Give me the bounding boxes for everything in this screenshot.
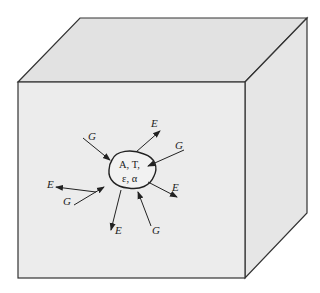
label-e-lower-right: E [171,181,179,193]
label-g-bottom-right: G [152,224,160,236]
body-properties-line2: ε, α [122,173,138,184]
label-e-left: E [46,178,54,190]
label-e-bottom: E [114,224,122,236]
label-e-upper-right: E [150,117,158,129]
enclosure-diagram: A, T, ε, α G E G E E G E G [0,0,320,293]
body-properties-line1: A, T, [119,159,140,170]
label-g-upper-left: G [88,130,96,142]
label-g-lower-left: G [63,195,71,207]
label-g-right: G [175,139,183,151]
